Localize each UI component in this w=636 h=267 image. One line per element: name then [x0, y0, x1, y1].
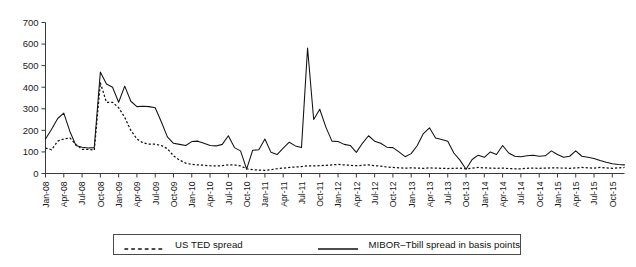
y-tick-label: 600	[23, 38, 39, 49]
x-tick-label: Apr-15	[571, 181, 581, 207]
x-tick-label: Apr-13	[425, 181, 435, 207]
x-tick-label: Apr-12	[352, 181, 362, 207]
x-tick-label: Oct-11	[315, 181, 325, 206]
x-tick-label: Apr-08	[59, 181, 69, 207]
x-tick-label: Jan-11	[260, 181, 270, 207]
series-line-mibor-tbill-spread	[46, 48, 625, 169]
x-tick-label: Jul-10	[224, 181, 234, 205]
legend-label-mibor: MIBOR–Tbill spread in basis points	[368, 239, 520, 250]
x-tick-label: Oct-08	[96, 181, 106, 207]
y-tick-label: 100	[23, 146, 39, 157]
x-tick-label: Oct-13	[461, 181, 471, 207]
y-tick-label: 200	[23, 125, 39, 136]
y-tick-label: 400	[23, 82, 39, 93]
x-tick-label: Jul-09	[151, 181, 161, 205]
legend-swatch-solid	[317, 240, 359, 250]
x-tick-label: Apr-10	[205, 181, 215, 207]
chart-legend: US TED spread MIBOR–Tbill spread in basi…	[113, 234, 521, 255]
x-tick-label: Jan-08	[41, 181, 51, 207]
x-tick-label: Apr-14	[498, 181, 508, 207]
x-tick-label: Oct-14	[535, 181, 545, 207]
x-tick-label: Jul-12	[370, 181, 380, 205]
x-tick-label: Jan-10	[187, 181, 197, 207]
chart-figure: 0100200300400500600700Jan-08Apr-08Jul-08…	[0, 0, 636, 267]
line-chart-plot: 0100200300400500600700Jan-08Apr-08Jul-08…	[0, 0, 636, 267]
x-tick-label: Jan-12	[333, 181, 343, 207]
x-tick-label: Jul-11	[297, 181, 307, 204]
y-tick-label: 0	[33, 168, 38, 179]
series-line-us-ted-spread	[46, 83, 625, 170]
legend-swatch-dotted	[124, 240, 166, 250]
x-tick-label: Jan-14	[480, 181, 490, 207]
x-tick-label: Jul-13	[443, 181, 453, 205]
x-tick-label: Oct-09	[169, 181, 179, 207]
x-tick-label: Apr-11	[279, 181, 289, 206]
y-tick-label: 700	[23, 17, 39, 28]
x-tick-label: Apr-09	[132, 181, 142, 207]
x-tick-label: Jul-15	[589, 181, 599, 205]
legend-entry-ted: US TED spread	[124, 239, 317, 250]
x-tick-label: Jan-15	[553, 181, 563, 207]
x-tick-label: Jul-08	[77, 181, 87, 205]
legend-entry-mibor: MIBOR–Tbill spread in basis points	[317, 239, 520, 250]
x-tick-label: Jan-09	[114, 181, 124, 207]
y-tick-label: 300	[23, 103, 39, 114]
x-tick-label: Jul-14	[516, 181, 526, 205]
legend-label-ted: US TED spread	[175, 239, 243, 250]
x-tick-label: Oct-10	[242, 181, 252, 207]
x-tick-label: Jan-13	[407, 181, 417, 207]
x-tick-label: Oct-12	[388, 181, 398, 207]
y-tick-label: 500	[23, 60, 39, 71]
x-tick-label: Oct-15	[608, 181, 618, 207]
